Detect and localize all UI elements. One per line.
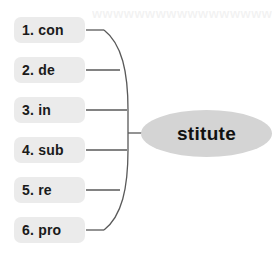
prefix-chip-con[interactable]: 1. con bbox=[14, 17, 85, 43]
root-word-node[interactable]: stitute bbox=[141, 110, 272, 157]
prefix-chip-label: 1. con bbox=[22, 23, 64, 37]
prefix-chip-in[interactable]: 3. in bbox=[14, 97, 85, 123]
prefix-chip-label: 6. pro bbox=[22, 223, 61, 237]
prefix-chip-label: 5. re bbox=[22, 183, 52, 197]
root-word-label: stitute bbox=[177, 124, 236, 143]
word-building-diagram: wwwwwwwwwwwwwwwwww 1. con 2. de 3. in 4.… bbox=[0, 0, 274, 257]
brace-curve bbox=[104, 30, 128, 230]
prefix-chip-label: 2. de bbox=[22, 63, 55, 77]
prefix-chip-sub[interactable]: 4. sub bbox=[14, 137, 85, 163]
prefix-chip-label: 3. in bbox=[22, 103, 51, 117]
prefix-chip-re[interactable]: 5. re bbox=[14, 177, 85, 203]
prefix-chip-label: 4. sub bbox=[22, 143, 64, 157]
prefix-chip-de[interactable]: 2. de bbox=[14, 57, 85, 83]
prefix-chip-pro[interactable]: 6. pro bbox=[14, 217, 85, 243]
